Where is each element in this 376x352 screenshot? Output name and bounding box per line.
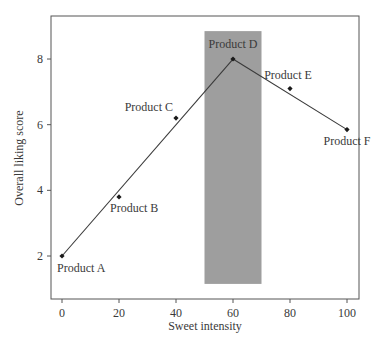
data-point-marker (287, 86, 292, 91)
x-tick-label: 0 (59, 306, 65, 320)
data-point-marker (173, 116, 178, 121)
point-label: Product F (323, 134, 370, 148)
optimal-sweetness-region (205, 31, 262, 284)
point-label: Product B (110, 201, 158, 215)
point-label: Product A (57, 261, 106, 275)
point-label: Product C (125, 100, 173, 114)
y-tick-label: 6 (37, 118, 43, 132)
x-tick-label: 40 (170, 306, 182, 320)
x-tick-label: 20 (113, 306, 125, 320)
x-tick-label: 80 (284, 306, 296, 320)
x-tick-label: 100 (338, 306, 356, 320)
y-axis-label: Overall liking score (12, 110, 26, 205)
liking-vs-sweetness-chart: 0204060801002468 Product AProduct BProdu… (0, 0, 376, 352)
x-tick-label: 60 (227, 306, 239, 320)
y-tick-label: 4 (37, 183, 43, 197)
x-axis-label: Sweet intensity (168, 319, 242, 333)
point-label: Product D (209, 37, 258, 51)
axis-ticks: 0204060801002468 (37, 52, 356, 320)
data-point-marker (116, 194, 121, 199)
point-label: Product E (264, 68, 312, 82)
shaded-region (205, 31, 262, 284)
data-point-marker (344, 127, 349, 132)
y-tick-label: 2 (37, 249, 43, 263)
y-tick-label: 8 (37, 52, 43, 66)
chart-svg: 0204060801002468 Product AProduct BProdu… (0, 0, 376, 352)
